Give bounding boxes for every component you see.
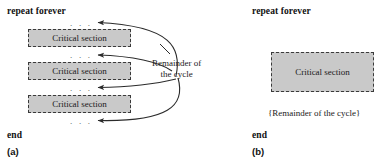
panel-a-ellipsis-2: . . . xyxy=(70,51,92,60)
panel-b-critical-section: Critical section xyxy=(271,52,374,92)
panel-a-end-label: end xyxy=(7,130,22,140)
panel-a-remainder-annotation-line1: Remainder of xyxy=(152,58,201,69)
panel-a-repeat-forever-label: repeat forever xyxy=(7,6,66,16)
panel-b-critical-section-label: Critical section xyxy=(295,68,350,77)
panel-a-caption: (a) xyxy=(7,146,19,157)
panel-a-critical-section-2: Critical section xyxy=(28,62,131,80)
annotation-leader-line xyxy=(160,44,170,54)
panel-a-critical-section-1: Critical section xyxy=(28,29,131,47)
panel-b-repeat-forever-label: repeat forever xyxy=(252,6,311,16)
panel-b-remainder-label: {Remainder of the cycle} xyxy=(268,108,360,118)
panel-b-end-label: end xyxy=(252,130,267,140)
panel-a-ellipsis-4: . . . xyxy=(70,117,92,126)
panel-a-ellipsis-1: . . . xyxy=(70,19,92,28)
panel-a-remainder-annotation: Remainder of the cycle xyxy=(152,58,201,80)
panel-a-critical-section-2-label: Critical section xyxy=(52,67,107,76)
panel-b-caption: (b) xyxy=(252,146,264,157)
panel-a-critical-section-3: Critical section xyxy=(28,95,131,113)
panel-a-critical-section-1-label: Critical section xyxy=(52,34,107,43)
panel-a-critical-section-3-label: Critical section xyxy=(52,100,107,109)
panel-a-remainder-annotation-line2: the cycle xyxy=(152,69,201,80)
panel-a-ellipsis-3: . . . xyxy=(70,84,92,93)
figure-root: repeat forever . . . Critical section . … xyxy=(0,0,392,164)
loop-arrow-3 xyxy=(98,79,176,88)
